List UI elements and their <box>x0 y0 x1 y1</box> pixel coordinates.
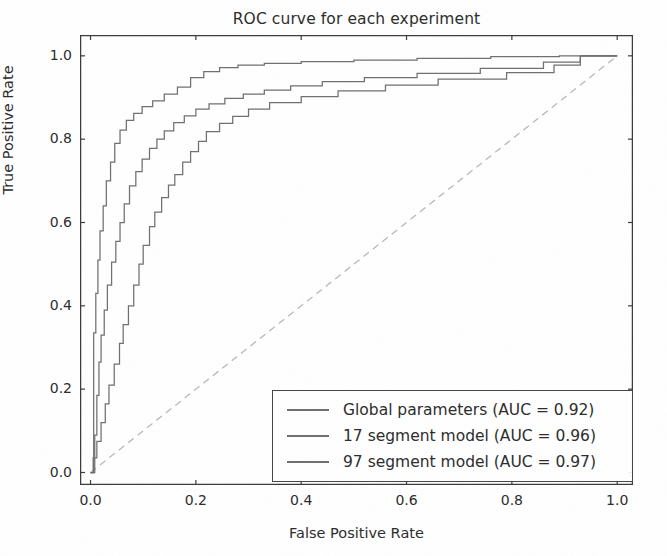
legend-line-swatch <box>287 409 329 411</box>
x-tick-label: 1.0 <box>587 492 647 508</box>
x-tick-label: 0.0 <box>61 492 121 508</box>
y-tick-label: 0.8 <box>22 130 72 146</box>
x-tick-label: 0.2 <box>166 492 226 508</box>
x-axis-label: False Positive Rate <box>80 525 633 541</box>
y-tick-label: 0.6 <box>22 214 72 230</box>
legend-line-swatch <box>287 435 329 437</box>
y-tick-label: 0.4 <box>22 297 72 313</box>
chart-title: ROC curve for each experiment <box>80 10 633 28</box>
legend-label: 97 segment model (AUC = 0.97) <box>343 453 596 471</box>
legend-item[interactable]: 17 segment model (AUC = 0.96) <box>281 423 622 449</box>
legend-item[interactable]: 97 segment model (AUC = 0.97) <box>281 449 622 475</box>
figure-canvas: ROC curve for each experiment 0.00.20.40… <box>0 0 667 556</box>
legend: Global parameters (AUC = 0.92)17 segment… <box>272 390 633 482</box>
y-tick-label: 0.2 <box>22 380 72 396</box>
x-tick-label: 0.4 <box>271 492 331 508</box>
legend-label: Global parameters (AUC = 0.92) <box>343 401 594 419</box>
y-tick-label: 1.0 <box>22 47 72 63</box>
x-tick-label: 0.8 <box>482 492 542 508</box>
x-tick-label: 0.6 <box>377 492 437 508</box>
y-axis-label: True Positive Rate <box>0 0 16 260</box>
legend-label: 17 segment model (AUC = 0.96) <box>343 427 596 445</box>
legend-item[interactable]: Global parameters (AUC = 0.92) <box>281 397 622 423</box>
legend-line-swatch <box>287 461 329 463</box>
y-tick-label: 0.0 <box>22 464 72 480</box>
